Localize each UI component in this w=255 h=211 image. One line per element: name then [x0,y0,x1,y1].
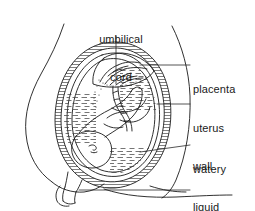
label-umbilical-cord-line2: cord [78,71,164,84]
label-placenta-line1: placenta [193,83,253,96]
label-vagina: vagina [193,183,253,211]
diagram-root: umbilical cord placenta uterus wall wate… [0,0,255,211]
label-watery-liquid-line1: watery [193,163,253,176]
label-uterus-wall-line1: uterus [193,122,253,135]
cervix-and-vagina [56,172,82,206]
label-umbilical-cord-line1: umbilical [78,33,164,46]
label-vagina-line1: vagina [193,208,253,211]
label-umbilical-cord: umbilical cord [78,8,164,108]
